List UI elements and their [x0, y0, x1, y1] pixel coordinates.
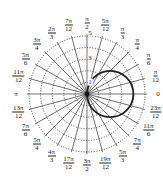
grid-spoke: [71, 36, 87, 94]
radial-label-1: 1: [88, 79, 93, 86]
origin-dot: [85, 92, 89, 96]
angle-label: 4π3: [47, 148, 55, 163]
angle-label: π3: [120, 25, 125, 40]
angle-label: 11π6: [143, 122, 154, 137]
polar-chart: 0π12π6π4π35π12π27π122π33π45π611π12π13π12…: [0, 0, 163, 180]
angle-label: 17π12: [63, 155, 75, 170]
angle-label: 23π12: [150, 105, 162, 120]
angle-label: 5π4: [33, 137, 41, 152]
angle-label: 19π12: [100, 155, 112, 170]
radial-label-5: 5: [88, 30, 93, 37]
radial-label-3: 3: [88, 55, 93, 62]
angle-label: 7π12: [65, 18, 73, 33]
angle-label: 3π4: [33, 36, 41, 51]
angle-label: 3π2: [83, 158, 91, 173]
angle-label: 7π6: [21, 122, 29, 137]
polar-plot-area: [0, 0, 163, 180]
angle-label: 5π3: [118, 148, 126, 163]
grid-spoke: [87, 78, 145, 94]
angle-label: 11π12: [13, 68, 24, 83]
angle-label: π4: [135, 36, 140, 51]
angle-label: 5π12: [101, 18, 109, 33]
angle-label: 2π3: [47, 25, 55, 40]
angle-label: π6: [146, 51, 151, 66]
angle-label: 13π12: [13, 105, 25, 120]
angle-label: 0: [156, 91, 160, 98]
angle-label: 5π6: [21, 51, 29, 66]
angle-label: π: [14, 91, 18, 98]
angle-label: π12: [152, 68, 159, 83]
angle-label: 7π4: [133, 137, 141, 152]
grid-spoke: [29, 94, 87, 110]
